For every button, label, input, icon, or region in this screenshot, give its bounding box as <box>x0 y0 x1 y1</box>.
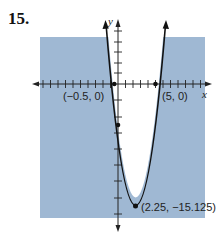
parabola-arrow-right-icon <box>163 20 169 29</box>
root-left-point <box>112 82 117 87</box>
y-intercept-point <box>116 123 121 128</box>
vertex-label: (2.25, −15.125) <box>141 201 216 213</box>
left-root-label: (−0.5, 0) <box>63 90 104 102</box>
right-root-label: (5, 0) <box>162 90 188 102</box>
x-axis-label: x <box>201 88 207 100</box>
vertex-point <box>133 204 138 209</box>
y-axis-label: y <box>107 15 113 27</box>
root-right-point <box>153 82 158 87</box>
graph: y x (−0.5, 0) (5, 0) (2.25, −15.125) <box>0 0 221 240</box>
